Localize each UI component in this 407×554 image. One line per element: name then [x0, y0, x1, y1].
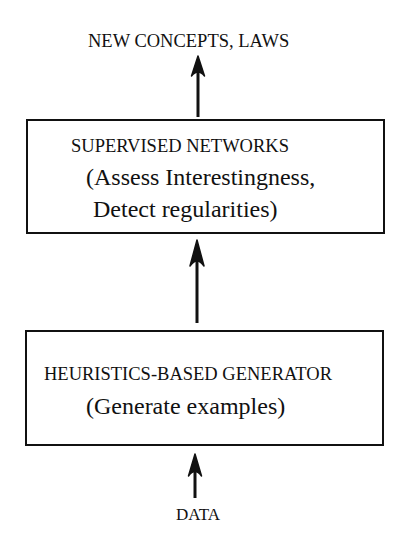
heuristics-generator-box [25, 330, 384, 446]
supervised-networks-line2: Detect regularities) [93, 196, 278, 223]
supervised-networks-line1: (Assess Interestingness, [86, 164, 315, 191]
heuristics-generator-line1: (Generate examples) [86, 393, 285, 420]
output-label: NEW CONCEPTS, LAWS [88, 31, 289, 52]
arrow-up-icon [192, 56, 205, 117]
input-label: DATA [176, 505, 220, 525]
supervised-networks-title: SUPERVISED NETWORKS [71, 136, 289, 157]
arrow-up-icon [189, 454, 202, 498]
arrow-up-icon [190, 240, 204, 323]
heuristics-generator-title: HEURISTICS-BASED GENERATOR [44, 364, 332, 385]
